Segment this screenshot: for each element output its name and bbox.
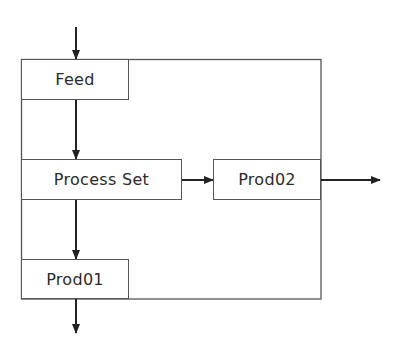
- node-process-set-label: Process Set: [54, 170, 149, 189]
- node-feed: Feed: [21, 59, 129, 100]
- node-prod01-label: Prod01: [46, 270, 104, 289]
- node-prod02-label: Prod02: [238, 170, 296, 189]
- node-process-set: Process Set: [21, 159, 182, 200]
- node-prod01: Prod01: [21, 259, 129, 299]
- node-prod02: Prod02: [213, 159, 321, 200]
- node-feed-label: Feed: [55, 70, 94, 89]
